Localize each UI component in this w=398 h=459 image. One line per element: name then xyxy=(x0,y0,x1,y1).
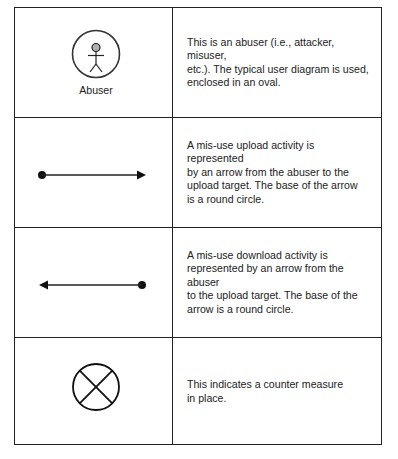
counter-measure-icon xyxy=(15,338,172,446)
counter-measure-description: This indicates a counter measure in plac… xyxy=(187,378,343,405)
description-cell: This indicates a counter measure in plac… xyxy=(173,338,381,445)
symbol-cell xyxy=(15,228,172,337)
download-description: A mis-use download activity is represent… xyxy=(187,249,371,317)
abuser-icon xyxy=(15,8,172,117)
upload-arrow-icon xyxy=(15,118,172,228)
legend-row-counter-measure: This indicates a counter measure in plac… xyxy=(15,337,381,445)
description-cell: A mis-use download activity is represent… xyxy=(173,228,381,337)
symbol-cell: Abuser xyxy=(15,8,172,117)
legend-row-upload: A mis-use upload activity is represented… xyxy=(15,117,381,227)
legend-row-abuser: Abuser This is an abuser (i.e., attacker… xyxy=(15,8,381,117)
column-divider xyxy=(172,8,173,444)
abuser-label: Abuser xyxy=(15,84,177,96)
description-cell: This is an abuser (i.e., attacker, misus… xyxy=(173,8,381,117)
description-cell: A mis-use upload activity is represented… xyxy=(173,118,381,227)
legend-row-download: A mis-use download activity is represent… xyxy=(15,227,381,337)
abuser-description: This is an abuser (i.e., attacker, misus… xyxy=(187,36,371,90)
symbol-cell xyxy=(15,118,172,227)
symbol-cell xyxy=(15,338,172,445)
symbol-legend-table: Abuser This is an abuser (i.e., attacker… xyxy=(14,7,382,445)
upload-description: A mis-use upload activity is represented… xyxy=(187,139,371,207)
download-arrow-icon xyxy=(15,228,172,338)
